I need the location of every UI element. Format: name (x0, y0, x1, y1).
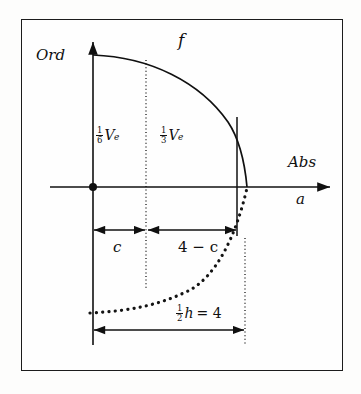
dimension-label-4-minus-c: 4 − c (178, 240, 218, 255)
fraction-one-half: 1 2 (176, 304, 183, 322)
fraction-one-sixth: 1 6 (96, 126, 103, 144)
region-label-left: 1 6 V e (96, 126, 120, 144)
curve-label-f: f (178, 32, 184, 49)
region-label-right: 1 3 V e (160, 126, 184, 144)
subscript-e-right: e (178, 133, 183, 142)
subscript-e-left: e (114, 133, 119, 142)
fraction-one-third: 1 3 (160, 126, 167, 144)
dimension-label-c: c (113, 240, 121, 255)
figure-page: Ord Abs f a c 4 − c 1 6 V e 1 3 V e 1 2 … (0, 0, 361, 394)
symbol-V-left: V (104, 128, 114, 142)
symbol-V-right: V (168, 128, 178, 142)
symbol-h: h (184, 306, 193, 320)
equals-four: = 4 (196, 306, 221, 320)
origin-dot (89, 183, 97, 191)
ordinate-label: Ord (36, 48, 65, 63)
curve-f (93, 55, 247, 187)
bottom-dimension-label: 1 2 h = 4 (176, 304, 222, 322)
abscissa-label: Abs (288, 155, 316, 170)
point-label-a: a (296, 192, 305, 207)
